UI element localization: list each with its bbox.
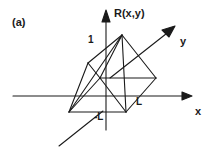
apex-edge-to-left [69,35,122,112]
pyramid-diagram [0,0,208,152]
positive-extent-label: L [136,97,142,107]
inner-fold-center [100,78,126,112]
panel-label: (a) [12,17,25,28]
base-edge-back-left [69,78,100,112]
y-axis-label: y [180,36,186,47]
height-tick-label: 1 [88,35,94,45]
x-axis-label: x [195,106,201,117]
r-axis-label: R(x,y) [114,8,145,19]
r-axis-arrowhead [102,10,110,22]
apex-edge-to-right [122,35,156,78]
apex-edge-to-front [122,35,126,112]
figure-container: (a) R(x,y) y x 1 L -L [0,0,208,152]
negative-extent-label: -L [94,112,103,122]
x-axis-arrowhead [182,92,192,100]
inner-fold-left [69,63,88,112]
